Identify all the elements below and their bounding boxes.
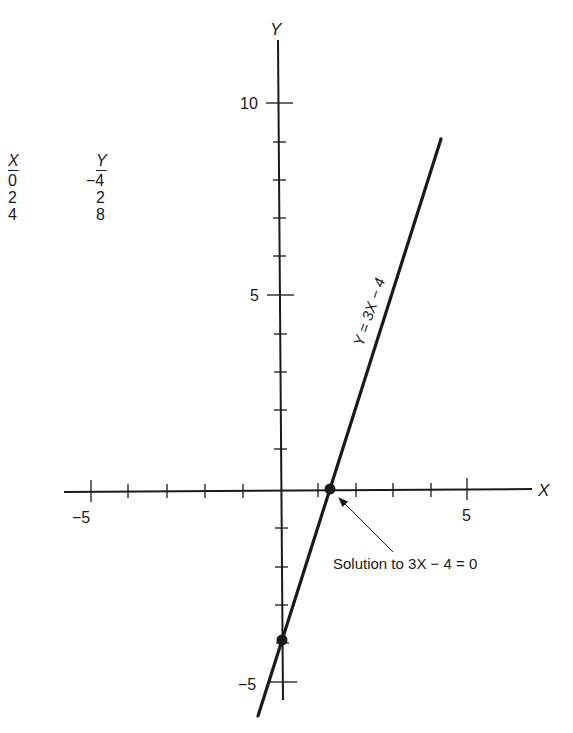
line-equation-label: Y = 3X − 4 (350, 276, 389, 348)
y-tick-label-neg5: −5 (238, 676, 256, 693)
y-tick-label-10: 10 (240, 95, 258, 112)
point-x-intercept-solution (325, 484, 336, 495)
annotation-arrow (339, 498, 393, 552)
y-tick-label-5: 5 (250, 287, 259, 304)
x-tick-label-5: 5 (462, 507, 471, 524)
x-axis-label: X (537, 481, 550, 500)
plot-line-y-equals-3x-minus-4 (258, 139, 441, 716)
x-tick-label-neg5: −5 (72, 509, 90, 526)
y-axis (278, 40, 283, 700)
solution-annotation: Solution to 3X − 4 = 0 (333, 555, 477, 572)
point-y-intercept (277, 635, 288, 646)
x-axis (64, 489, 532, 492)
graph: Y X 10 5 −5 −5 5 Y = 3X − 4 Solution to … (0, 0, 573, 733)
y-axis-label: Y (270, 20, 283, 39)
